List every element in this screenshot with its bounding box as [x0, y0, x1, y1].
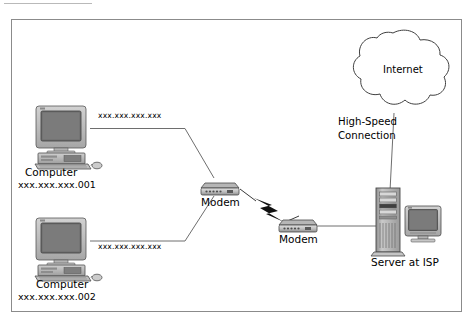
desktop-computer-icon [35, 106, 102, 169]
desktop-computer-icon [35, 218, 102, 281]
computer2-address: xxx.xxx.xxx.002 [18, 291, 96, 302]
link-label-computer2: xxx.xxx.xxx.xxx [98, 243, 161, 252]
internet-label: Internet [383, 64, 423, 76]
modem2-label: Modem [279, 233, 318, 245]
highspeed-label-line1: High-Speed [338, 116, 397, 129]
computer2-label: Computer [36, 278, 88, 290]
diagram-stage: xxx.xxx.xxx.xxx xxx.xxx.xxx.xxx Computer… [0, 0, 474, 327]
server-tower-icon [371, 188, 441, 256]
server-label: Server at ISP [371, 256, 439, 268]
modem1-label: Modem [201, 196, 240, 208]
computer1-label: Computer [25, 166, 77, 178]
highspeed-label-line2: Connection [338, 130, 396, 143]
link-label-computer1: xxx.xxx.xxx.xxx [98, 112, 161, 121]
modem-icon [279, 220, 317, 232]
computer1-address: xxx.xxx.xxx.001 [18, 179, 96, 190]
modem-icon [201, 183, 239, 195]
